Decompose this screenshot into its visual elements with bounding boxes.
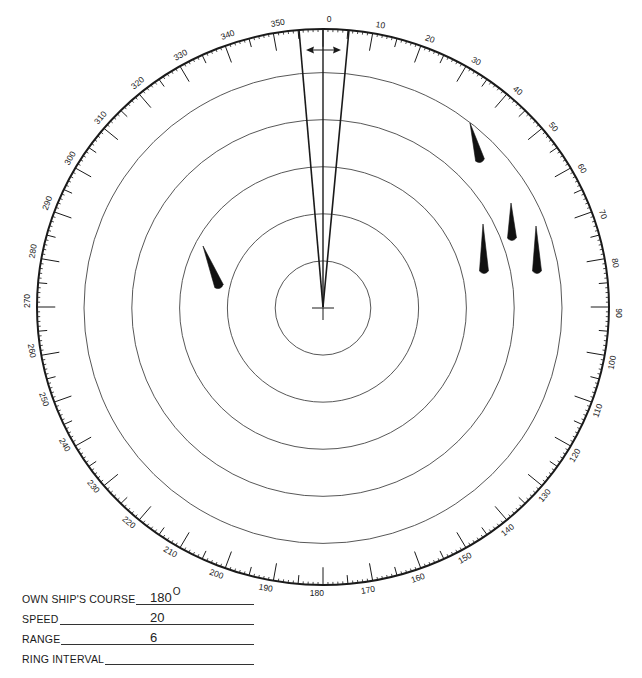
bearing-label: 190 — [258, 582, 274, 594]
bearing-label: 200 — [208, 567, 225, 581]
bearing-tick — [42, 254, 45, 255]
range-row: RANGE 6 — [22, 628, 254, 648]
bearing-tick — [550, 148, 557, 153]
bearing-tick — [457, 532, 466, 547]
bearing-tick — [457, 66, 466, 81]
speed-value[interactable]: 20 — [150, 610, 164, 625]
bearing-tick — [369, 563, 372, 580]
bearing-label: 330 — [172, 47, 190, 63]
bearing-tick — [139, 94, 151, 108]
bearing-tick — [64, 421, 72, 425]
bearing-label: 90 — [614, 308, 624, 318]
bearing-tick — [47, 235, 56, 237]
bearing-tick — [104, 128, 118, 139]
speed-label: SPEED — [22, 613, 60, 625]
bearing-tick — [528, 128, 542, 139]
bearing-label: 20 — [424, 32, 437, 45]
bearing-tick — [273, 563, 276, 580]
bearing-tick — [38, 283, 47, 284]
bearing-tick — [528, 474, 542, 485]
bearing-tick — [41, 352, 59, 355]
bearing-tick — [104, 474, 118, 485]
bearing-tick — [440, 55, 444, 63]
bearing-tick — [574, 190, 582, 194]
bearing-tick — [587, 259, 605, 262]
bearing-label: 50 — [547, 120, 561, 134]
bearing-tick — [42, 359, 45, 360]
bearing-label: 170 — [360, 584, 376, 596]
bearing-tick — [555, 437, 571, 446]
bearing-label: 160 — [409, 571, 426, 585]
bearing-tick — [519, 497, 525, 503]
bearing-label: 60 — [576, 162, 590, 175]
bearing-tick — [369, 33, 372, 50]
bearing-tick — [89, 148, 96, 153]
bearing-tick — [377, 34, 378, 37]
bearing-label: 250 — [37, 391, 51, 408]
bearing-tick — [121, 497, 127, 503]
bearing-tick — [377, 577, 378, 580]
bearing-tick — [75, 437, 91, 446]
bearing-tick — [415, 552, 421, 569]
bearing-tick — [75, 168, 91, 177]
course-label: OWN SHIP'S COURSE — [22, 593, 136, 605]
bearing-tick — [139, 506, 151, 520]
bearing-tick — [159, 527, 164, 534]
course-row: OWN SHIP'S COURSE 180O — [22, 588, 254, 608]
radar-target-echo — [533, 226, 542, 274]
bearing-tick — [574, 421, 582, 425]
radar-target-echo — [203, 246, 223, 289]
bearing-tick — [601, 359, 604, 360]
bearing-tick — [268, 577, 269, 580]
bearing-tick — [550, 461, 557, 466]
ring-interval-label: RING INTERVAL — [22, 653, 105, 665]
bearing-tick — [575, 212, 592, 218]
bearing-label: 340 — [219, 27, 236, 41]
radar-targets — [203, 123, 541, 289]
bearing-tick — [347, 575, 348, 584]
arrow-left-icon — [306, 47, 314, 54]
bearing-tick — [273, 33, 276, 50]
bearing-tick — [415, 46, 421, 63]
bearing-tick — [121, 110, 127, 116]
bearing-tick — [89, 461, 96, 466]
bearing-label: 300 — [62, 149, 78, 167]
bearing-tick — [495, 94, 507, 108]
speed-row: SPEED 20 — [22, 608, 254, 628]
bearing-tick — [601, 254, 604, 255]
bearing-label: 290 — [40, 194, 54, 211]
bearing-label: 180 — [310, 588, 324, 598]
range-label: RANGE — [22, 633, 61, 645]
bearing-tick — [180, 66, 189, 81]
bearing-tick — [225, 46, 231, 63]
own-ship-center-mark — [312, 300, 334, 320]
range-value[interactable]: 6 — [150, 630, 157, 645]
bearing-tick — [249, 38, 251, 47]
bearing-label: 280 — [27, 243, 39, 259]
bearing-tick — [47, 377, 56, 379]
bearing-label: 320 — [129, 74, 147, 91]
bearing-label: 30 — [470, 54, 483, 68]
course-number: 180 — [150, 590, 172, 605]
bearing-tick — [599, 330, 608, 331]
radar-target-echo — [480, 224, 489, 274]
bearing-tick — [54, 212, 71, 218]
radar-plotting-sheet: 0102030405060708090100110120130140150160… — [0, 0, 642, 678]
bearing-tick — [249, 567, 251, 576]
bearing-tick — [482, 527, 487, 534]
bearing-label: 0 — [327, 14, 332, 24]
bearing-tick — [54, 396, 71, 402]
bearing-tick — [590, 235, 599, 237]
bearing-tick — [225, 552, 231, 569]
bearing-tick — [268, 34, 269, 37]
bearing-tick — [590, 377, 599, 379]
bearing-label: 10 — [375, 19, 386, 31]
bearing-label: 80 — [610, 257, 622, 268]
degree-symbol: O — [173, 586, 181, 597]
course-value[interactable]: 180O — [150, 586, 180, 605]
bearing-tick — [482, 79, 487, 86]
bearing-tick — [495, 506, 507, 520]
bearing-tick — [180, 532, 189, 547]
bearing-label: 350 — [270, 17, 286, 29]
bearing-label: 40 — [511, 84, 525, 98]
